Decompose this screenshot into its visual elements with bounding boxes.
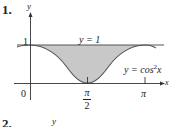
problem-number-2: 2. [2,117,12,127]
y-axis-label-2: y [52,117,56,126]
frac-denominator: 2 [85,101,90,111]
y-tick-label-1: 1 [23,37,28,47]
x-tick-label-pi-over-2: π 2 [83,88,91,111]
label-suffix: x [157,64,161,75]
label-y-equals-cos-squared-x: y = cos2x [124,64,161,75]
origin-label: 0 [21,89,26,99]
frac-numerator: π [84,88,89,98]
problem-number-1: 1. [2,3,12,16]
x-tick-label-pi: π [141,89,146,99]
label-y-equals-1: y = 1 [79,35,100,45]
y-axis-arrow-icon [29,12,33,17]
y-axis-label: y [27,2,31,11]
x-axis-label: x [165,79,169,87]
label-prefix: y = cos [124,64,154,75]
